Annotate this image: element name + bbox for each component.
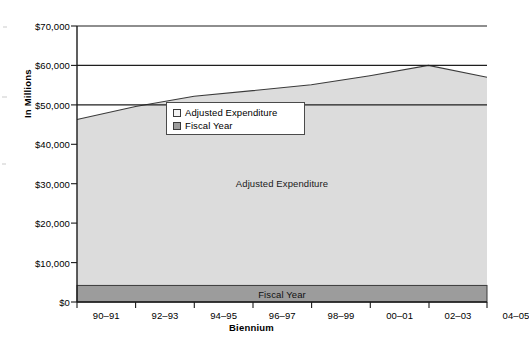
series-inner-label-adjusted-expenditure: Adjusted Expenditure [236, 178, 328, 189]
legend-label: Adjusted Expenditure [185, 107, 277, 118]
x-axis-title: Biennium [0, 322, 503, 333]
chart-legend[interactable]: Adjusted Expenditure Fiscal Year [166, 102, 305, 135]
legend-item-fiscal-year[interactable]: Fiscal Year [173, 119, 304, 132]
legend-swatch-icon [173, 109, 181, 117]
series-inner-label-fiscal-year: Fiscal Year [258, 288, 306, 299]
legend-item-adjusted-expenditure[interactable]: Adjusted Expenditure [173, 106, 304, 119]
x-axis-ticks [77, 302, 487, 308]
legend-swatch-icon [173, 122, 181, 130]
x-tick-label: 04–05 [503, 310, 529, 321]
x-tick-label: 94–95 [210, 310, 237, 321]
x-tick-label: 98–99 [328, 310, 355, 321]
legend-label: Fiscal Year [185, 120, 233, 131]
x-tick-label: 96–97 [269, 310, 296, 321]
x-tick-label: 90–91 [93, 310, 120, 321]
x-tick-label: 02–03 [445, 310, 472, 321]
x-tick-label: 00–01 [386, 310, 413, 321]
y-axis-ticks [71, 26, 77, 302]
x-tick-label: 92–93 [152, 310, 179, 321]
